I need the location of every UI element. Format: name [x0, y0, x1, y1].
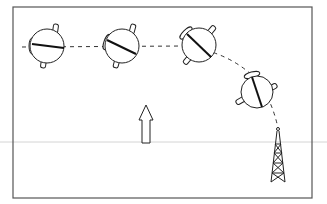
craft-1 [29, 24, 64, 68]
diagram-canvas [0, 0, 327, 204]
craft-4 [235, 70, 278, 108]
craft-3 [178, 25, 216, 65]
direction-arrow-icon [139, 105, 153, 143]
craft-2 [101, 24, 139, 69]
radio-tower-icon [271, 128, 285, 183]
loop-antenna-icon [105, 29, 139, 63]
